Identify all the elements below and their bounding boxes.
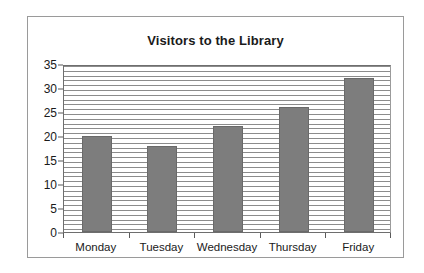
x-axis-tick-label: Thursday <box>269 241 317 253</box>
bar <box>344 78 374 232</box>
bar <box>213 126 243 232</box>
x-axis-tick-label: Monday <box>75 241 116 253</box>
y-axis-tick-label: 20 <box>44 130 57 144</box>
y-axis: 05101520253035 <box>28 65 63 233</box>
x-axis-tick-mark <box>390 233 391 238</box>
plot-wrap <box>63 65 391 233</box>
y-axis-tick-label: 30 <box>44 82 57 96</box>
x-axis-tick-mark <box>194 233 195 238</box>
x-axis-tick-mark <box>63 233 64 238</box>
bar <box>147 146 177 232</box>
y-axis-tick-label: 0 <box>50 226 57 240</box>
bar <box>82 136 112 232</box>
x-axis-tick-label: Wednesday <box>197 241 258 253</box>
y-axis-tick-label: 10 <box>44 178 57 192</box>
chart-frame: Visitors to the Library 05101520253035 M… <box>27 16 404 258</box>
x-axis-tick-mark <box>129 233 130 238</box>
y-axis-tick-label: 35 <box>44 58 57 72</box>
y-axis-tick-label: 25 <box>44 106 57 120</box>
y-axis-tick-label: 15 <box>44 154 57 168</box>
x-axis-tick-label: Friday <box>342 241 374 253</box>
bar <box>279 107 309 232</box>
x-axis-tick-label: Tuesday <box>140 241 184 253</box>
chart-title: Visitors to the Library <box>28 33 403 48</box>
y-axis-tick-label: 5 <box>50 202 57 216</box>
plot-area <box>63 65 391 233</box>
x-axis-tick-mark <box>260 233 261 238</box>
x-axis: MondayTuesdayWednesdayThursdayFriday <box>63 233 391 259</box>
x-axis-tick-mark <box>325 233 326 238</box>
